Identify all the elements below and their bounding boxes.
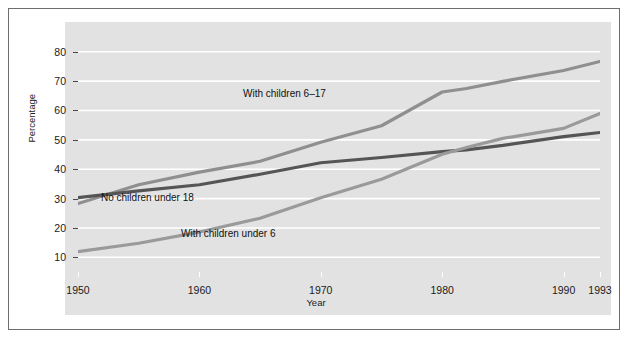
y-tick-label: 10 [40,252,66,262]
y-tick-label: 20 [40,223,66,233]
x-tick-label: 1960 [177,284,221,296]
y-tick-label: 30 [40,194,66,204]
x-tick-label: 1970 [299,284,343,296]
plot-area [78,40,600,272]
y-axis-title: Percentage [26,125,37,143]
plot-svg [78,40,600,272]
x-tick-mark [321,272,322,277]
series-label-no-children-under-18: No children under 18 [101,192,194,203]
y-tick-label: 80 [40,47,66,57]
x-tick-mark [442,272,443,277]
series-label-with-children-under-6: With children under 6 [181,228,276,239]
y-tick-label: 40 [40,164,66,174]
x-tick-label: 1950 [56,284,100,296]
series-lines [78,61,600,251]
figure-root: Percentage 1020304050607080 195019601970… [0,0,632,346]
series-line [78,133,600,198]
x-tick-mark [600,272,601,277]
x-tick-mark [564,272,565,277]
x-axis-title: Year [0,297,632,308]
x-tick-mark [78,272,79,277]
y-tick-label: 70 [40,76,66,86]
gridlines [78,52,600,258]
x-tick-mark [199,272,200,277]
y-tick-label: 60 [40,105,66,115]
y-tick-label: 50 [40,135,66,145]
x-tick-label: 1993 [578,284,622,296]
x-tick-label: 1980 [420,284,464,296]
series-line [78,61,600,203]
series-label-with-children-6-17: With children 6–17 [243,88,326,99]
